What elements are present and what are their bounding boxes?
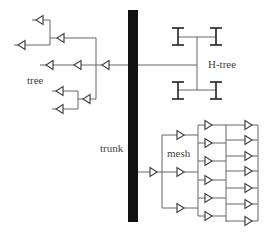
buffer-icon	[245, 200, 252, 209]
buffer-icon	[102, 61, 109, 70]
buffer-icon	[57, 34, 64, 43]
buffer-icon	[205, 121, 212, 130]
buffer-icon	[245, 121, 252, 130]
buffer-icon	[46, 61, 53, 70]
htree-label: H-tree	[208, 58, 236, 70]
buffer-icon	[74, 61, 81, 70]
buffer-icon	[83, 95, 90, 104]
buffer-icon	[150, 168, 157, 177]
buffer-icon	[245, 184, 252, 193]
buffer-icon	[245, 136, 252, 145]
buffer-icon	[205, 212, 212, 221]
buffer-icon	[245, 217, 252, 226]
buffer-icon	[18, 41, 25, 50]
buffer-icon	[177, 204, 184, 213]
clock-distribution-diagram	[0, 0, 273, 232]
buffer-icon	[205, 139, 212, 148]
tree-network	[14, 20, 128, 109]
buffer-icon	[177, 168, 184, 177]
buffer-icon	[177, 131, 184, 140]
buffer-icon	[56, 105, 63, 114]
mesh-network	[138, 125, 258, 222]
buffer-icon	[245, 167, 252, 176]
trunk-bar	[128, 10, 138, 222]
tree-label: tree	[27, 74, 43, 86]
buffer-icon	[205, 176, 212, 185]
buffer-icon	[56, 87, 63, 96]
buffer-icon	[36, 16, 43, 25]
buffer-icon	[205, 157, 212, 166]
mesh-label: mesh	[167, 147, 190, 159]
trunk-label: trunk	[100, 142, 123, 154]
mesh-buffers	[150, 121, 252, 226]
buffer-icon	[245, 152, 252, 161]
buffer-icon	[205, 194, 212, 203]
